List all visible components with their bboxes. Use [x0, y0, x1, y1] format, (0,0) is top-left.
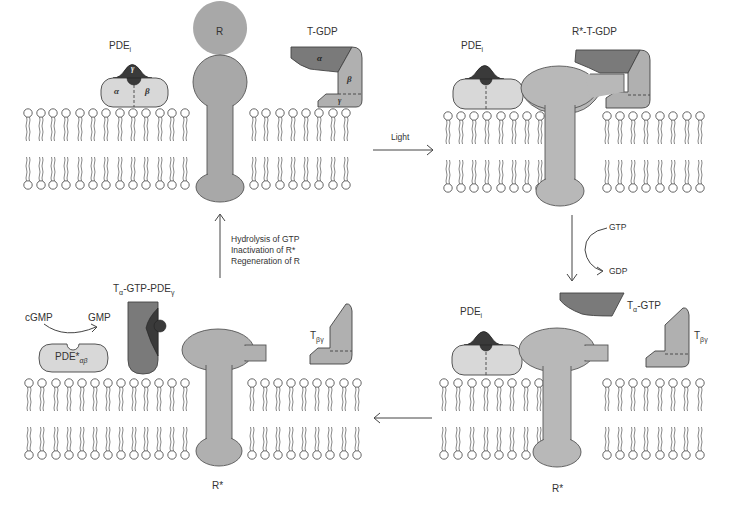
receptor-label-r: R	[216, 26, 223, 37]
diagram-canvas	[0, 0, 732, 511]
pde-active-label: PDE*αβ	[55, 351, 87, 364]
pde-inactive-label-top-right: PDEi	[461, 40, 483, 53]
pde-inactive-label-top-left: PDEi	[109, 40, 131, 53]
pde-gamma-label: γ	[131, 64, 134, 73]
receptor-transducin-complex-label: R*-T-GDP	[572, 26, 617, 37]
pde-inactive-bottom-right	[452, 332, 522, 376]
receptor-active-label-bottom-right: R*	[552, 483, 563, 494]
transducin-alpha-gtp	[560, 293, 624, 316]
regeneration-label: Regeneration of R	[231, 256, 300, 267]
receptor-active-bottom-right	[519, 328, 608, 467]
inactivation-label: Inactivation of R*	[231, 245, 295, 256]
membrane-bottom-left	[25, 379, 361, 459]
gmp-label: GMP	[88, 312, 111, 323]
transducin-alpha-gtp-pde-gamma	[128, 302, 166, 374]
cgmp-hydrolysis-arrow	[44, 324, 97, 333]
pde-beta-label: β	[145, 86, 150, 96]
t-alpha-gtp-label: Tα-GTP	[627, 300, 661, 313]
gtp-exchange-arrow	[567, 215, 607, 281]
receptor-active-label-bottom-left: R*	[212, 480, 223, 491]
pde-alpha-label: α	[114, 86, 119, 96]
light-label: Light	[391, 132, 409, 143]
receptor-transducin-complex	[521, 50, 650, 206]
t-alpha-gtp-pde-gamma-label: Tα-GTP-PDEγ	[113, 283, 174, 296]
pde-inactive-label-bottom-right: PDEi	[460, 306, 482, 319]
t-beta-gamma-label-bottom-right: Tβγ	[694, 330, 708, 343]
light-arrow	[373, 145, 433, 155]
transducin-beta-gamma-bottom-right	[646, 308, 689, 367]
gtp-label: GTP	[609, 222, 626, 233]
regeneration-arrow	[215, 214, 225, 278]
t-alpha-subunit-label: α	[317, 53, 322, 63]
hydrolysis-label: Hydrolysis of GTP	[231, 234, 300, 245]
membrane-top-left	[24, 109, 350, 189]
pde-inactive-top-left	[101, 65, 168, 108]
deactivation-arrow	[374, 413, 432, 423]
gdp-label: GDP	[609, 266, 627, 277]
transducin-gdp-label: T-GDP	[307, 26, 338, 37]
cgmp-label: cGMP	[25, 312, 53, 323]
t-beta-gamma-label-bottom-left: Tβγ	[310, 330, 324, 343]
t-gamma-subunit-label: γ	[338, 96, 341, 105]
pde-inactive-top-right	[453, 66, 523, 110]
t-beta-subunit-label: β	[347, 74, 352, 84]
